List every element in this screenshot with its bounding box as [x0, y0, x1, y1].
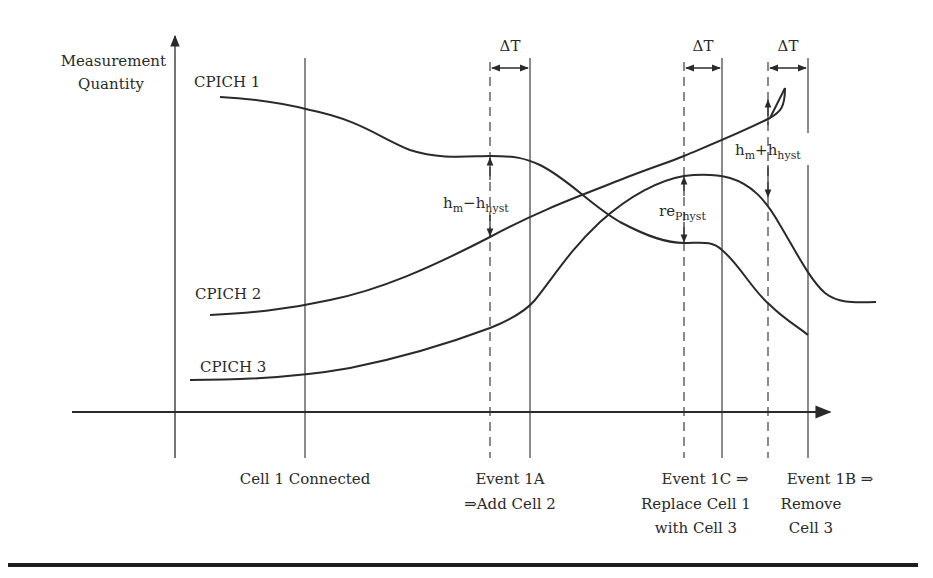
event-diagram: Measurement Quantity ΔT ΔT ΔT CPICH 1	[0, 0, 933, 578]
delta-t-1c: ΔT	[686, 37, 720, 68]
event-label-1a: Event 1A ⇒Add Cell 2	[464, 470, 556, 513]
svg-text:with Cell 3: with Cell 3	[655, 519, 737, 537]
svg-text:ΔT: ΔT	[500, 37, 521, 55]
event-label-1b: Event 1B ⇒ Remove Cell 3	[781, 470, 874, 537]
svg-text:Event 1B ⇒: Event 1B ⇒	[787, 470, 874, 488]
hm-plus-hyst-annotation: hm+hhyst	[735, 100, 801, 197]
svg-text:ΔT: ΔT	[693, 37, 714, 55]
delta-t-1a: ΔT	[492, 37, 528, 68]
event-label-1c: Event 1C ⇒ Replace Cell 1 with Cell 3	[641, 470, 751, 537]
label-cpich-1: CPICH 1	[194, 73, 260, 91]
y-axis-label-line1: Measurement	[61, 52, 166, 70]
svg-text:Remove: Remove	[781, 495, 842, 513]
svg-text:Event 1A: Event 1A	[475, 470, 544, 488]
curve-cpich-3	[190, 175, 876, 380]
y-axis-label-line2: Quantity	[78, 75, 144, 93]
svg-text:hm+hhyst: hm+hhyst	[735, 141, 801, 162]
trigger-lines	[490, 62, 768, 458]
svg-text:Cell 1 Connected: Cell 1 Connected	[240, 470, 371, 488]
event-lines	[305, 58, 808, 458]
bottom-rule	[8, 563, 918, 567]
svg-text:Cell 3: Cell 3	[789, 519, 833, 537]
hm-minus-hyst-annotation: hm−hhyst	[443, 158, 509, 236]
svg-text:hm−hhyst: hm−hhyst	[443, 194, 509, 215]
svg-text:⇒Add Cell 2: ⇒Add Cell 2	[464, 495, 556, 513]
svg-text:rePhyst: rePhyst	[659, 202, 706, 223]
label-cpich-3: CPICH 3	[200, 358, 266, 376]
delta-t-1b: ΔT	[770, 37, 806, 68]
re-physt-annotation: rePhyst	[659, 177, 706, 242]
curve-cpich-1	[220, 97, 808, 335]
svg-text:Event 1C ⇒: Event 1C ⇒	[661, 470, 749, 488]
label-cpich-2: CPICH 2	[195, 285, 261, 303]
event-label-connected: Cell 1 Connected	[240, 470, 371, 488]
svg-text:ΔT: ΔT	[778, 37, 799, 55]
svg-text:Replace Cell 1: Replace Cell 1	[641, 495, 751, 513]
